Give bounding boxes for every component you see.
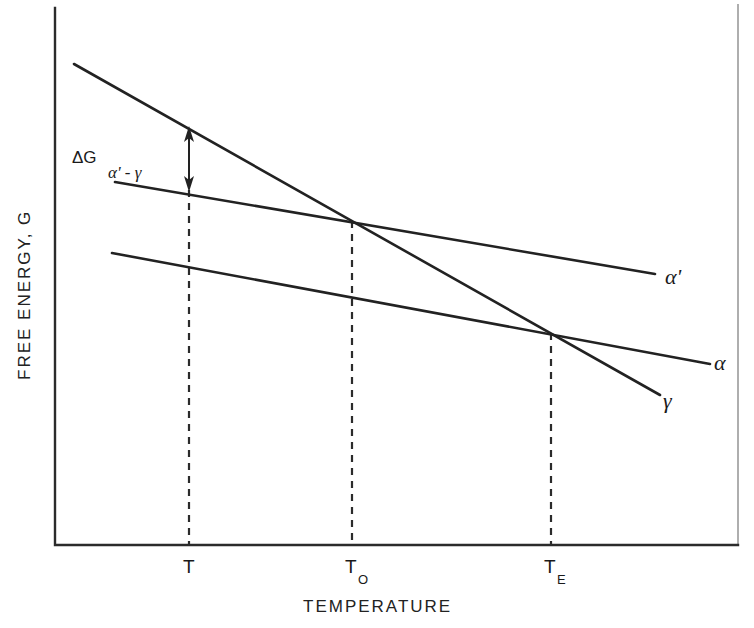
curve-label-alpha-prime: α': [665, 264, 682, 289]
y-axis-title: FREE ENERGY, G: [15, 210, 34, 380]
curve-label-alpha: α: [714, 350, 726, 375]
tick-label-TE: T: [544, 556, 556, 577]
figure-background: [0, 0, 754, 628]
free-energy-temperature-diagram: FREE ENERGY, G TEMPERATURE α' α γ ΔG α' …: [0, 0, 754, 628]
tick-label-T0: T: [345, 556, 357, 577]
tick-subscript-TE: E: [557, 572, 566, 587]
tick-subscript-T0: O: [358, 572, 368, 587]
tick-label-T: T: [183, 556, 195, 577]
x-axis-title: TEMPERATURE: [303, 597, 452, 616]
delta-g-label: ΔG: [72, 148, 97, 167]
curve-label-gamma: γ: [663, 388, 673, 413]
delta-g-subscript: α' - γ: [108, 163, 143, 182]
